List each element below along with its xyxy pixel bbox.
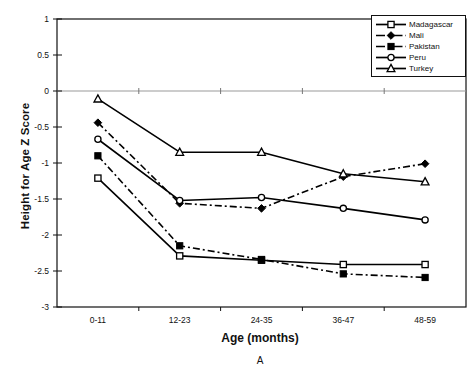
legend-marker-icon [375, 41, 407, 52]
x-axis-tick-label: 12-23 [145, 316, 215, 325]
legend-marker-icon [375, 30, 407, 41]
series-line [98, 178, 425, 264]
legend-label: Peru [407, 54, 426, 62]
legend-item-mali[interactable]: Mali [375, 30, 463, 41]
legend-label: Pakistan [407, 43, 440, 51]
y-axis-tick-label: -1.5 [15, 195, 49, 204]
legend-marker-icon [375, 52, 407, 63]
data-point-marker [177, 253, 183, 259]
data-point-marker [340, 205, 346, 211]
data-point-marker [258, 256, 264, 262]
legend-label: Mali [407, 32, 424, 40]
data-point-marker [387, 32, 395, 40]
panel-label: A [60, 355, 460, 366]
data-point-marker [421, 160, 429, 168]
data-point-marker [422, 217, 428, 223]
data-point-marker [94, 95, 102, 102]
data-point-marker [388, 21, 394, 27]
legend-marker-icon [375, 19, 407, 30]
legend-item-madagascar[interactable]: Madagascar [375, 19, 463, 30]
chart-figure: Height for Age Z Score Age (months) A 10… [0, 0, 473, 375]
y-axis-tick-label: 0 [15, 87, 49, 96]
data-point-marker [95, 153, 101, 159]
y-axis-tick-label: -2 [15, 231, 49, 240]
x-axis-title: Age (months) [60, 331, 460, 345]
y-axis-tick-label: -1 [15, 159, 49, 168]
legend-item-peru[interactable]: Peru [375, 52, 463, 63]
data-point-marker [258, 205, 266, 213]
data-point-marker [340, 261, 346, 267]
legend-label: Madagascar [407, 21, 453, 29]
chart-legend: MadagascarMaliPakistanPeruTurkey [371, 15, 466, 77]
series-line [98, 99, 425, 182]
data-point-marker [422, 261, 428, 267]
x-axis-tick-label: 24-35 [227, 316, 297, 325]
x-axis-tick-label: 48-59 [390, 316, 460, 325]
x-axis-tick-label: 36-47 [308, 316, 378, 325]
data-point-marker [388, 43, 394, 49]
data-point-marker [95, 175, 101, 181]
y-axis-tick-label: -0.5 [15, 123, 49, 132]
legend-item-pakistan[interactable]: Pakistan [375, 41, 463, 52]
legend-label: Turkey [407, 65, 433, 73]
legend-item-turkey[interactable]: Turkey [375, 63, 463, 74]
data-point-marker [422, 274, 428, 280]
y-axis-tick-label: -2.5 [15, 267, 49, 276]
data-point-marker [258, 194, 264, 200]
data-point-marker [177, 243, 183, 249]
data-point-marker [340, 271, 346, 277]
series-madagascar [95, 175, 428, 268]
y-axis-tick-label: 0.5 [15, 51, 49, 60]
data-point-marker [177, 197, 183, 203]
y-axis-tick-label: 1 [15, 15, 49, 24]
legend-marker-icon [375, 63, 407, 74]
x-axis-tick-label: 0-11 [63, 316, 133, 325]
data-point-marker [388, 54, 394, 60]
data-point-marker [95, 136, 101, 142]
y-axis-tick-label: -3 [15, 303, 49, 312]
